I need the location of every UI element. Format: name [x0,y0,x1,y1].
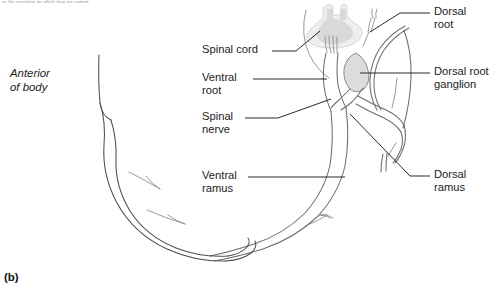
panel-letter-b: (b) [4,271,19,283]
dorsal-rootlets [363,9,377,46]
label-ventral-ramus: Ventral ramus [202,169,237,196]
label-spinal-cord: Spinal cord [202,43,258,56]
label-dorsal-root-ganglion: Dorsal root ganglion [434,65,489,92]
leader-dorsal-ramus [350,114,430,176]
label-dorsal-root: Dorsal root [434,5,466,32]
label-ventral-root: Ventral root [202,71,237,98]
label-dorsal-ramus: Dorsal ramus [434,168,466,195]
orientation-label-anterior-of-body: Anterior of body [10,66,50,94]
figure-panel-b: as the vertebrae for which they are name… [0,0,502,295]
dorsal-root-ganglion-graphic [344,53,369,92]
spinal-cord-graphic [307,5,362,49]
dorsal-ramus-graphic [356,96,406,172]
label-spinal-nerve: Spinal nerve [202,110,233,137]
leader-spinal-nerve [245,99,331,118]
